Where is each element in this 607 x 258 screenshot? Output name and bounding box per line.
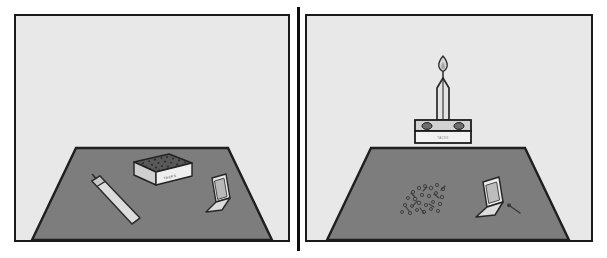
figure-root: TACKS [0,0,607,258]
before-scene: TACKS [16,16,288,240]
table-surface [327,148,569,240]
wall-tack-left [422,123,432,130]
matchbook-matches [486,182,500,203]
wall-tack-right [454,123,464,130]
after-scene: TACKS [307,16,591,240]
panel-divider [297,7,300,251]
after-scene-svg: TACKS [307,16,591,240]
tack-box-shelf-label: TACKS [437,136,448,140]
before-scene-svg: TACKS [16,16,288,240]
before-panel: TACKS [14,14,290,242]
after-panel: TACKS [305,14,593,242]
